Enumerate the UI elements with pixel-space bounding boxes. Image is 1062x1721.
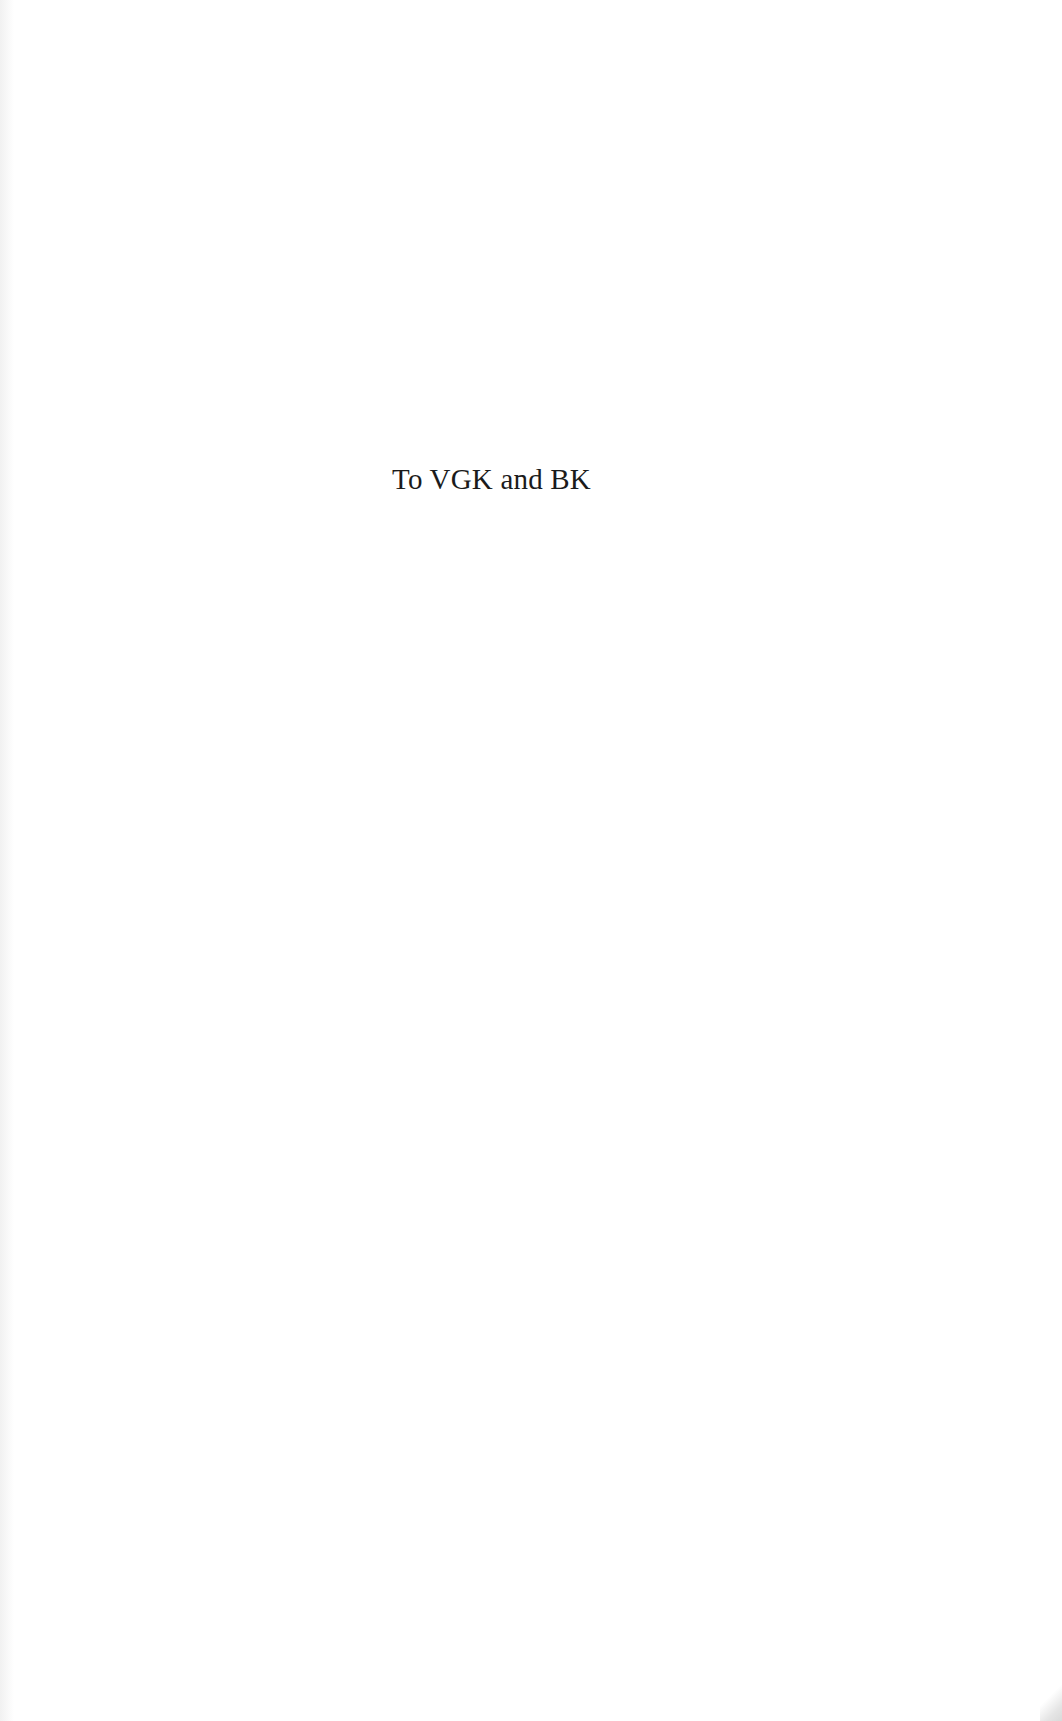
scan-edge-shade [0,0,14,1721]
page-corner-shadow [1040,1681,1062,1721]
book-page: To VGK and BK [0,0,1062,1721]
dedication-text: To VGK and BK [392,459,591,499]
